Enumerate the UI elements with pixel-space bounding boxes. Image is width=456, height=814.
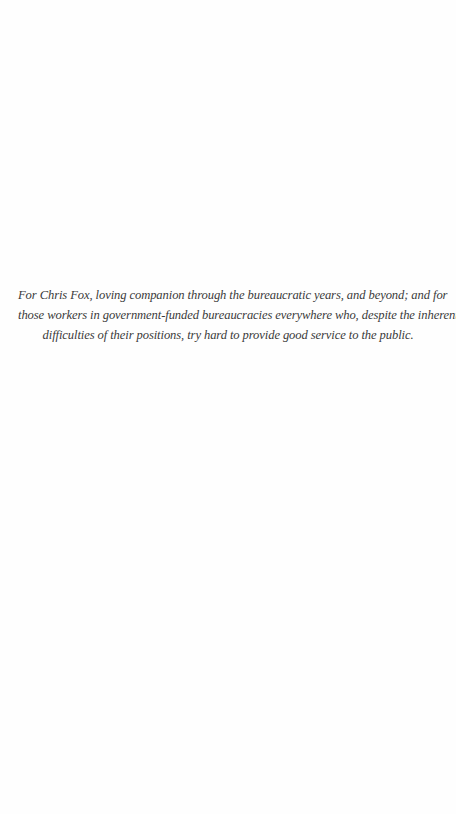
dedication-line: For Chris Fox, loving companion through … bbox=[18, 285, 438, 305]
dedication-line: difficulties of their positions, try har… bbox=[18, 325, 438, 345]
dedication-line: those workers in government-funded burea… bbox=[18, 305, 438, 325]
book-page: For Chris Fox, loving companion through … bbox=[0, 0, 456, 814]
dedication-text: For Chris Fox, loving companion through … bbox=[18, 285, 438, 345]
